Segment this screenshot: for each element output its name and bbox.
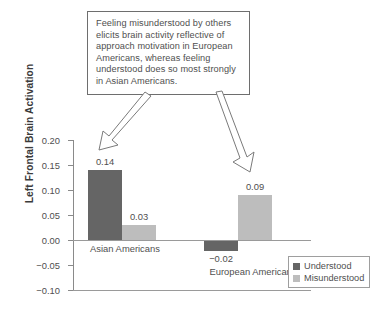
y-tick-0: 0.20 [68,140,73,141]
legend-item-understood: Understood [293,260,364,272]
legend-label-misunderstood: Misunderstood [304,273,364,283]
y-tick-label-1: 0.15 [42,160,60,171]
category-label-asian-americans: Asian Americans [90,243,160,254]
bottom-axis-line [73,290,311,291]
y-axis-title: Left Frontal Brain Activation [24,49,35,219]
bar-label-asian-misunderstood: 0.03 [130,211,148,222]
annotation-callout: Feeling misunderstood by others elicits … [87,11,250,95]
y-tick-label-0: 0.20 [42,135,60,146]
y-tick-label-5: −0.05 [36,260,60,271]
y-tick-label-6: −0.10 [36,285,60,296]
y-tick-label-2: 0.10 [42,185,60,196]
bar-label-european-understood: −0.02 [209,253,233,264]
bar-asian-misunderstood [122,225,156,240]
bar-label-asian-understood: 0.14 [96,156,114,167]
y-axis-spine [73,140,74,290]
bar-european-misunderstood [238,195,272,240]
zero-line [73,240,311,241]
y-tick-5: −0.05 [68,265,73,266]
legend-item-misunderstood: Misunderstood [293,272,364,284]
bar-label-european-misunderstood: 0.09 [246,181,264,192]
y-tick-1: 0.15 [68,165,73,166]
bar-chart-figure: Feeling misunderstood by others elicits … [0,0,390,316]
legend-label-understood: Understood [304,261,352,271]
legend-swatch-misunderstood [293,275,300,282]
bar-european-understood [204,241,238,251]
annotation-text: Feeling misunderstood by others elicits … [96,18,242,88]
y-tick-2: 0.10 [68,190,73,191]
category-label-european-americans: European Americans [209,266,296,277]
plot-area: 0.20 0.15 0.10 0.05 0.00 −0.05 −0.10 0.1… [73,140,313,290]
chart-legend: Understood Misunderstood [288,256,370,288]
bar-asian-understood [88,170,122,240]
y-tick-label-3: 0.05 [42,210,60,221]
y-tick-3: 0.05 [68,215,73,216]
legend-swatch-understood [293,263,300,270]
y-tick-label-4: 0.00 [42,235,60,246]
